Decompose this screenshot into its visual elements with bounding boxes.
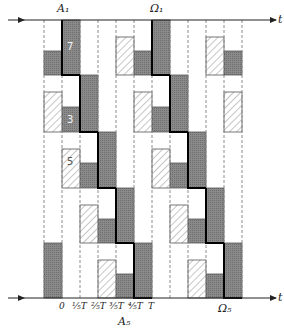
tick-0: 0	[59, 302, 65, 311]
top-axis-left-arrow-icon	[18, 17, 25, 23]
label-A5: A₅	[118, 316, 130, 327]
label-Omega5: Ω₅	[218, 303, 232, 314]
dark-block	[80, 163, 98, 188]
dark-block	[206, 188, 224, 243]
hatched-block	[188, 260, 206, 298]
dark-block	[224, 243, 242, 298]
label-A1: A₁	[57, 3, 69, 14]
dark-block	[44, 243, 62, 298]
dark-block	[152, 20, 170, 75]
hatched-block	[98, 260, 116, 298]
staircase-schedule-diagram	[0, 0, 284, 333]
bottom-axis-arrow-icon	[270, 295, 277, 301]
dark-block	[134, 243, 152, 298]
block-number-5: 5	[67, 157, 73, 167]
block-number-7: 7	[67, 42, 73, 52]
tick-4-5T: ⅘T	[128, 302, 143, 311]
hatched-block	[206, 37, 224, 75]
label-Omega1: Ω₁	[150, 3, 164, 14]
dark-block	[134, 51, 152, 75]
hatched-block	[134, 92, 152, 132]
hatched-block	[224, 92, 242, 132]
dark-block	[152, 107, 170, 132]
hatched-block	[116, 37, 134, 75]
dark-block	[80, 75, 98, 132]
dark-block	[188, 132, 206, 188]
hatched-block	[62, 149, 80, 188]
dark-block	[44, 51, 62, 75]
tick-3-5T: ⅗T	[109, 302, 124, 311]
hatched-block	[44, 92, 62, 132]
hatched-block	[170, 205, 188, 243]
dark-block	[188, 219, 206, 243]
bottom-axis-t-label: t	[278, 292, 282, 303]
top-axis-arrow-icon	[270, 17, 277, 23]
block-number-3: 3	[67, 115, 73, 125]
hatched-block	[80, 205, 98, 243]
dark-block	[224, 51, 242, 75]
tick-1-5T: ⅕T	[72, 302, 87, 311]
tick-T: T	[148, 302, 154, 311]
dark-block	[116, 188, 134, 243]
dark-block	[98, 132, 116, 188]
tick-2-5T: ⅖T	[91, 302, 106, 311]
bottom-axis-left-arrow-icon	[18, 295, 25, 301]
dark-block	[98, 219, 116, 243]
dark-block	[116, 274, 134, 298]
hatched-block	[152, 149, 170, 188]
dark-block	[170, 75, 188, 132]
dark-block	[170, 163, 188, 188]
top-axis-t-label: t	[278, 14, 282, 25]
dark-block	[206, 274, 224, 298]
